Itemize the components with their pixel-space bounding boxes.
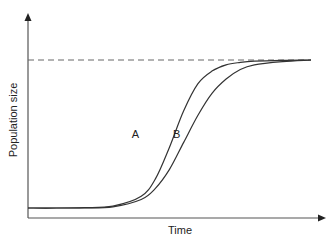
series-a-curve (28, 60, 311, 208)
annotation-layer: AB (132, 128, 180, 140)
y-axis-label: Population size (7, 83, 19, 158)
y-axis-arrow-icon (25, 13, 32, 21)
x-axis-label: Time (168, 224, 192, 236)
curve-label-a: A (132, 128, 140, 140)
series-b-curve (28, 60, 311, 208)
x-axis-arrow-icon (318, 215, 326, 222)
curve-label-b: B (173, 128, 180, 140)
logistic-growth-chart: Time Population size AB (0, 0, 336, 248)
series-layer (28, 60, 311, 208)
